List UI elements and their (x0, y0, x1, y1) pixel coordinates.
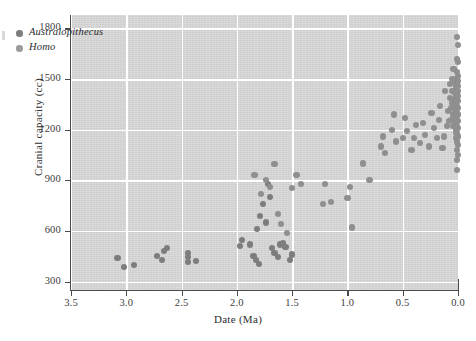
data-point (293, 172, 299, 178)
gridline-vertical (237, 15, 238, 290)
y-tick (65, 180, 70, 181)
x-tick-label: 1.0 (327, 297, 367, 308)
data-point (256, 261, 262, 267)
data-point (193, 258, 199, 264)
data-point (253, 257, 259, 263)
x-tick-label: 0.5 (383, 297, 423, 308)
data-point (420, 120, 426, 126)
x-tick (237, 291, 238, 296)
legend-label: Homo (29, 41, 55, 52)
data-point (251, 172, 257, 178)
data-point (439, 145, 445, 151)
x-tick-label: 2.0 (217, 297, 257, 308)
data-point (320, 201, 326, 207)
data-point (185, 254, 191, 260)
data-point (378, 143, 384, 149)
x-tick (292, 291, 293, 296)
data-point (280, 240, 286, 246)
x-tick-label: 0.0 (438, 297, 476, 308)
x-tick-label: 3.0 (106, 297, 146, 308)
data-point (444, 123, 450, 129)
data-point (159, 257, 165, 263)
data-point (275, 254, 281, 260)
data-point (446, 118, 452, 124)
gridline-vertical (458, 15, 459, 290)
data-point (380, 133, 386, 139)
x-tick (347, 291, 348, 296)
data-point (452, 103, 458, 109)
x-tick-label: 3.5 (51, 297, 91, 308)
data-point (445, 108, 451, 114)
y-axis-spine (70, 15, 71, 291)
data-point (257, 213, 263, 219)
data-point (263, 219, 269, 225)
data-point (442, 88, 448, 94)
data-point (185, 259, 191, 265)
x-axis-spine (70, 290, 459, 291)
x-tick-label: 1.5 (272, 297, 312, 308)
legend-label: Australopithecus (29, 26, 103, 37)
data-point (393, 138, 399, 144)
data-point (452, 110, 458, 116)
data-point (434, 135, 440, 141)
data-point (450, 123, 456, 129)
data-point (447, 81, 453, 87)
data-point (164, 245, 170, 251)
x-tick (458, 291, 459, 296)
data-point (131, 262, 137, 268)
data-point (428, 110, 434, 116)
data-point (267, 194, 273, 200)
gridline-vertical (403, 15, 404, 290)
data-point (450, 111, 456, 117)
data-point (413, 122, 419, 128)
plot-panel (71, 15, 458, 290)
data-point (282, 244, 288, 250)
data-point (271, 250, 277, 256)
gridline-horizontal (71, 282, 458, 283)
data-point (391, 111, 397, 117)
x-tick (126, 291, 127, 296)
y-axis-label: Cranial capacity (cc) (32, 27, 44, 227)
gridline-horizontal (71, 130, 458, 131)
data-point (154, 253, 160, 259)
data-point (452, 118, 458, 124)
x-tick (403, 291, 404, 296)
data-point (422, 132, 428, 138)
data-point (452, 96, 458, 102)
x-tick (182, 291, 183, 296)
x-axis-label: Date (Ma) (0, 313, 476, 325)
data-point (382, 150, 388, 156)
data-point (250, 253, 256, 259)
data-point (452, 90, 458, 96)
gridline-horizontal (71, 231, 458, 232)
page-edge-artifact (2, 31, 5, 40)
data-point (269, 245, 275, 251)
gridline-horizontal (71, 180, 458, 181)
data-point (436, 117, 442, 123)
gridline-horizontal (71, 28, 458, 29)
data-point (426, 143, 432, 149)
data-point (328, 199, 334, 205)
data-point (277, 241, 283, 247)
y-tick (65, 79, 70, 80)
gridline-vertical (182, 15, 183, 290)
data-point (450, 66, 456, 72)
data-point (258, 191, 264, 197)
data-point (349, 224, 355, 230)
data-point (239, 237, 245, 243)
data-point (449, 100, 455, 106)
x-tick (71, 291, 72, 296)
data-point (271, 161, 277, 167)
gridline-horizontal (71, 79, 458, 80)
data-point (417, 140, 423, 146)
data-point (437, 103, 443, 109)
data-point (260, 201, 266, 207)
data-point (275, 211, 281, 217)
gridline-vertical (126, 15, 127, 290)
x-tick-label: 2.5 (162, 297, 202, 308)
y-tick-label: 300 (16, 275, 61, 286)
data-point (185, 250, 191, 256)
data-point (448, 117, 454, 123)
y-tick (65, 130, 70, 131)
data-point (360, 160, 366, 166)
